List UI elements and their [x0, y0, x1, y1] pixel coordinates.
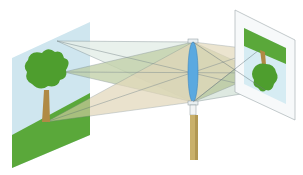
optics-diagram [0, 0, 303, 175]
lens [188, 39, 198, 115]
lens-bottom-clamp [188, 101, 198, 105]
lens-stand [190, 115, 198, 160]
lens-holder-neck [190, 105, 196, 115]
biconvex-lens [188, 42, 198, 102]
